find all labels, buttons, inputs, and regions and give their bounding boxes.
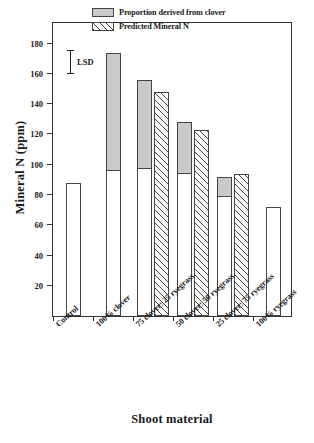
bar-measured-2 [137, 80, 152, 316]
y-tick-label-160: 160 [30, 67, 43, 81]
bar-predicted-3 [194, 130, 209, 316]
y-tick-80: 80 [47, 194, 53, 195]
bar-measured-base-2 [137, 168, 152, 316]
bar-predicted-2 [154, 92, 169, 316]
lsd-cap-bottom [67, 73, 74, 74]
y-tick-160: 160 [47, 73, 53, 74]
y-tick-20: 20 [47, 285, 53, 286]
y-tick-100: 100 [47, 164, 53, 165]
chart-legend: Proportion derived from clover Predicted… [92, 6, 240, 34]
bar-measured-0 [66, 183, 81, 316]
y-tick-label-40: 40 [35, 249, 44, 263]
lsd-error-bar: LSD [67, 50, 74, 74]
y-tick-label-120: 120 [30, 127, 43, 141]
y-tick-label-20: 20 [35, 279, 44, 293]
legend-item-clover: Proportion derived from clover [92, 6, 240, 19]
y-tick-label-140: 140 [30, 97, 43, 111]
hatched-swatch-icon [92, 22, 114, 31]
bar-measured-base-1 [106, 170, 121, 316]
chart-figure: Mineral N (ppm) Shoot material LSD 20406… [0, 0, 314, 443]
y-axis-title: Mineral N (ppm) [13, 88, 28, 248]
legend-label-clover: Proportion derived from clover [119, 8, 226, 17]
lsd-label: LSD [77, 57, 94, 67]
bar-measured-base-4 [217, 196, 232, 317]
lsd-cap-top [67, 50, 74, 51]
y-tick-40: 40 [47, 255, 53, 256]
grey-swatch-icon [92, 8, 114, 17]
y-tick-180: 180 [47, 43, 53, 44]
y-tick-label-80: 80 [35, 188, 44, 202]
legend-item-predicted: Predicted Mineral N [92, 20, 240, 33]
y-tick-label-60: 60 [35, 218, 44, 232]
y-tick-label-180: 180 [30, 37, 43, 51]
bar-measured-base-3 [177, 173, 192, 316]
x-axis-title: Shoot material [52, 412, 292, 427]
y-tick-120: 120 [47, 133, 53, 134]
y-tick-60: 60 [47, 224, 53, 225]
lsd-stem [70, 50, 71, 74]
legend-label-predicted: Predicted Mineral N [119, 22, 189, 31]
bar-measured-4 [217, 177, 232, 316]
plot-area: LSD 20406080100120140160180 [52, 22, 292, 317]
y-tick-label-100: 100 [30, 158, 43, 172]
y-tick-140: 140 [47, 103, 53, 104]
bar-measured-1 [106, 53, 121, 316]
